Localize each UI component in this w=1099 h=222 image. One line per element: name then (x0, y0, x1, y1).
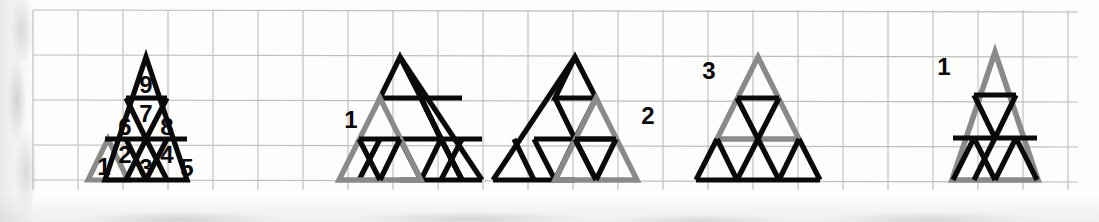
figure-5[interactable]: 1 (937, 52, 1038, 180)
figure-4-label: 3 (702, 57, 715, 84)
figure-3[interactable]: 2 (493, 57, 655, 180)
figure-5-black-mesh (953, 95, 1037, 180)
figure-3-label: 2 (641, 102, 654, 129)
figure-5-label: 1 (937, 53, 950, 80)
figure-2[interactable]: 1 (339, 57, 482, 180)
figure-1-unit-label-8: 8 (160, 113, 173, 140)
figure-2-label: 1 (344, 106, 357, 133)
figure-1-unit-label-4: 4 (160, 141, 174, 168)
figure-1-unit-label-5: 5 (180, 154, 193, 181)
figure-1-unit-label-9: 9 (139, 71, 152, 98)
figure-1[interactable]: 1 9 7 6 8 2 (88, 57, 194, 181)
figure-1-unit-label-6: 6 (118, 113, 131, 140)
figure-1-unit-label-2: 2 (118, 141, 131, 168)
triangle-figures-group: 1 9 7 6 8 2 (0, 0, 1099, 222)
figure-4[interactable]: 3 (696, 57, 820, 180)
figure-3-gray-region-inner-lines (575, 139, 616, 180)
figure-2-black-mesh (359, 57, 482, 180)
figure-1-unit-label-7: 7 (139, 100, 152, 127)
figure-3-black-mesh (493, 57, 616, 180)
figure-1-unit-label-3: 3 (139, 154, 152, 181)
figure-4-black-mesh (696, 98, 820, 180)
worksheet-page: 1 9 7 6 8 2 (0, 0, 1099, 222)
